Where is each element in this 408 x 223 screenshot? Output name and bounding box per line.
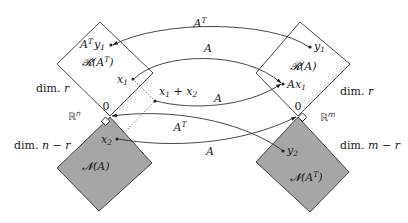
null-space-label: 𝓝(A) xyxy=(82,160,110,173)
right-codomain-rm: 0 ℝm 𝓡(A) dim. r 𝓝(AT) dim. m − r y1 Ax1 xyxy=(256,22,401,212)
label-map-sum-A: A xyxy=(213,92,222,105)
left-null-space-diamond xyxy=(256,117,349,212)
point-Ax1 xyxy=(281,82,284,85)
origin-label-left: 0 xyxy=(103,100,110,113)
arrow-A-x2-to-zero xyxy=(118,117,296,144)
column-space-dim: dim. r xyxy=(340,85,374,98)
four-subspaces-diagram: 0 ℝn 𝓡(AT) dim. r 𝓝(A) dim. n − r ATy1 x… xyxy=(0,0,408,223)
label-x1-plus-x2: x1 + x2 xyxy=(159,85,197,99)
left-domain-rn: 0 ℝn 𝓡(AT) dim. r 𝓝(A) dim. n − r ATy1 x… xyxy=(14,22,153,211)
arrow-AT-y2-to-zero xyxy=(112,114,282,150)
label-map-x1-A: A xyxy=(203,42,212,55)
label-map-top-AT: AT xyxy=(193,16,208,30)
null-space-dim: dim. n − r xyxy=(14,139,71,152)
row-space-dim: dim. r xyxy=(36,82,70,95)
label-map-y2-AT: AT xyxy=(173,120,188,134)
left-null-space-dim: dim. m − r xyxy=(340,139,401,152)
rm-label: ℝm xyxy=(320,110,335,123)
column-space-label: 𝓡(A) xyxy=(290,60,317,73)
rn-label: ℝn xyxy=(68,109,81,122)
origin-label-right: 0 xyxy=(295,100,302,113)
label-map-x2-A: A xyxy=(205,145,214,158)
point-ATy1 xyxy=(109,43,112,46)
row-space-label: 𝓡(AT) xyxy=(82,55,114,69)
left-null-space-label: 𝓝(AT) xyxy=(290,170,323,184)
